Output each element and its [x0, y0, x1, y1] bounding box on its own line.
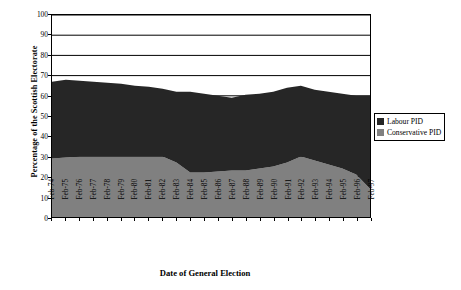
y-axis-tick-label: 80 [22, 50, 48, 59]
x-axis-tick-label-text: Feb-82 [159, 179, 167, 221]
x-axis-tick-label-text: Feb-77 [90, 179, 98, 221]
x-axis-tick-label-text: Feb-91 [285, 179, 293, 221]
y-axis-tick-label: 60 [22, 91, 48, 100]
x-axis-tick-label-text: Feb-88 [243, 179, 251, 221]
y-axis-tick-label: 40 [22, 132, 48, 141]
plot-area [51, 14, 371, 218]
x-axis-tick-label-text: Feb-79 [118, 179, 126, 221]
x-axis-tick-labels: Feb-74Feb-75Feb-76Feb-77Feb-78Feb-79Feb-… [51, 219, 371, 265]
x-axis-tick-label-text: Feb-87 [229, 179, 237, 221]
plot-svg [52, 15, 370, 217]
x-axis-tick-label-text: Feb-94 [326, 179, 334, 221]
stacked-area-chart: Percentage of the Scottish Electorate 01… [0, 0, 461, 290]
legend-item-label: Conservative PID [387, 127, 441, 138]
y-axis-tick-label: 50 [22, 112, 48, 121]
y-axis-tick-labels: 0102030405060708090100 [18, 14, 48, 218]
x-axis-tick-label-text: Feb-74 [48, 179, 56, 221]
x-axis-tick-label-text: Feb-81 [145, 179, 153, 221]
legend-item[interactable]: Conservative PID [377, 127, 441, 138]
y-axis-tick-label: 90 [22, 30, 48, 39]
x-axis-tick-label-text: Feb-80 [131, 179, 139, 221]
x-axis-tick-label-text: Feb-96 [354, 179, 362, 221]
x-axis-tick-label-text: Feb-92 [298, 179, 306, 221]
x-axis-tick-label-text: Feb-97 [368, 179, 376, 221]
x-axis-tick-label-text: Feb-83 [173, 179, 181, 221]
y-axis-tick-label: 30 [22, 152, 48, 161]
x-axis-tick-label-text: Feb-89 [257, 179, 265, 221]
chart-legend: Labour PIDConservative PID [374, 113, 445, 141]
x-axis-tick-label-text: Feb-86 [215, 179, 223, 221]
x-axis-tick-label-text: Feb-85 [201, 179, 209, 221]
y-axis-tick-label: 10 [22, 193, 48, 202]
x-axis-title: Date of General Election [35, 268, 375, 278]
legend-item-label: Labour PID [387, 116, 423, 127]
y-axis-tick-label: 0 [22, 214, 48, 223]
x-axis-tick-label-text: Feb-84 [187, 179, 195, 221]
x-axis-tick-label-text: Feb-75 [62, 179, 70, 221]
x-axis-tick-label-text: Feb-90 [271, 179, 279, 221]
x-axis-tick-label-text: Feb-78 [104, 179, 112, 221]
legend-swatch-icon [377, 129, 384, 136]
y-axis-tick-label: 100 [22, 10, 48, 19]
x-axis-tick-label-text: Feb-76 [76, 179, 84, 221]
x-axis-tick-label-text: Feb-93 [312, 179, 320, 221]
x-axis-tick-label-text: Feb-95 [340, 179, 348, 221]
legend-swatch-icon [377, 118, 384, 125]
legend-item[interactable]: Labour PID [377, 116, 441, 127]
y-axis-tick-label: 70 [22, 71, 48, 80]
y-axis-tick-label: 20 [22, 173, 48, 182]
